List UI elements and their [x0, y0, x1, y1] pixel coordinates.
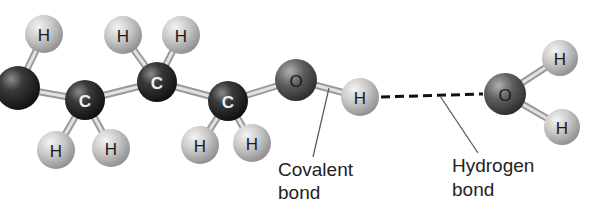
atom-label: C	[79, 92, 91, 111]
hydrogen-bond-callout: Hydrogenbond	[440, 96, 534, 200]
callout-pointer-line	[440, 96, 478, 153]
covalent-bond-callout: Covalentbond	[278, 88, 354, 203]
hydrogen-atom: H	[25, 15, 63, 53]
atom-label: H	[105, 140, 117, 159]
atom-label: C	[151, 74, 163, 93]
callout-label: bond	[452, 179, 494, 200]
hydrogen-atom: H	[162, 16, 200, 54]
atom-label: O	[498, 86, 511, 105]
hydrogen-atom: H	[341, 78, 379, 116]
atom-label: C	[222, 93, 234, 112]
carbon-atom: C	[137, 62, 177, 102]
atom-label: H	[554, 50, 566, 69]
atom-label: O	[289, 72, 302, 91]
molecule-diagram: HCHHHCHCHHOHOHH CovalentbondHydrogenbond	[0, 0, 600, 212]
callout-label: Covalent	[278, 159, 354, 180]
carbon-atom	[0, 66, 40, 110]
atom-label: H	[117, 27, 129, 46]
hydrogen-atom: H	[104, 16, 142, 54]
atom-label: H	[556, 119, 568, 138]
oxygen-atom: O	[484, 73, 526, 115]
hydrogen-atom: H	[37, 131, 75, 169]
callout-label: bond	[278, 182, 320, 203]
hydrogen-atom: H	[181, 126, 219, 164]
hydrogen-bond-dashed-line	[381, 94, 483, 97]
hydrogen-atom: H	[542, 40, 578, 76]
callout-label: Hydrogen	[452, 155, 534, 176]
hydrogen-bond-line	[381, 94, 483, 97]
atoms: HCHHHCHCHHOHOHH	[0, 15, 580, 169]
atom-label: H	[246, 135, 258, 154]
atom-label: H	[38, 26, 50, 45]
callout-pointer-line	[313, 88, 329, 157]
carbon-atom: C	[208, 81, 248, 121]
oxygen-atom: O	[275, 59, 317, 101]
atom-label: H	[50, 142, 62, 161]
carbon-atom: C	[65, 80, 105, 120]
atom-label: H	[354, 89, 366, 108]
atom-label: H	[175, 27, 187, 46]
hydrogen-atom: H	[544, 109, 580, 145]
hydrogen-atom: H	[233, 124, 271, 162]
hydrogen-atom: H	[92, 129, 130, 167]
atom-label: H	[194, 137, 206, 156]
